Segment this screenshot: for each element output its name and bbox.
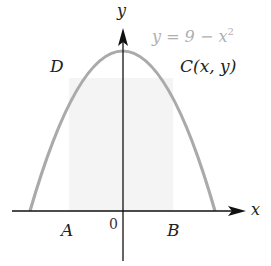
point-b-label: B xyxy=(167,222,180,239)
equation-exponent: 2 xyxy=(227,26,233,37)
equation-text: y = 9 − x xyxy=(152,27,227,46)
x-axis-label: x xyxy=(251,202,260,218)
origin-label: 0 xyxy=(109,217,118,231)
point-c-label: C(x, y) xyxy=(180,58,236,75)
point-d-label: D xyxy=(50,58,64,75)
parabola-rectangle-diagram: y x 0 y = 9 − x2 D C(x, y) A B xyxy=(0,0,271,266)
equation-label: y = 9 − x2 xyxy=(152,27,234,45)
inscribed-rectangle xyxy=(69,78,173,211)
point-a-label: A xyxy=(61,222,73,239)
y-axis-label: y xyxy=(117,3,126,19)
